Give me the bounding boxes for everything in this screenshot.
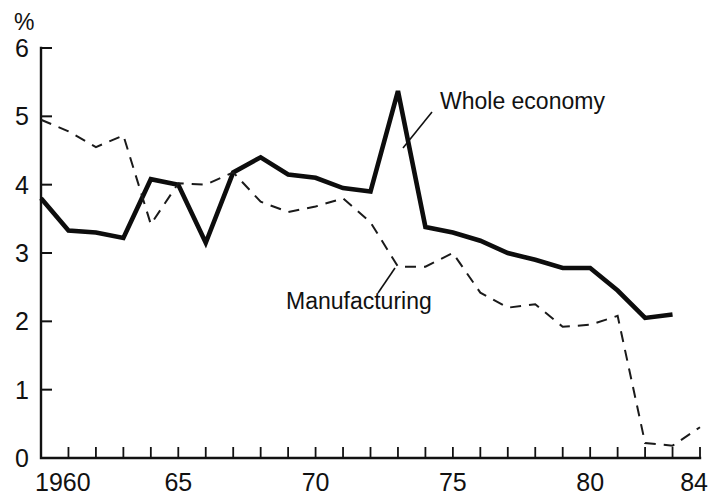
annotation-label-whole-economy: Whole economy xyxy=(440,88,605,114)
x-tick-label: 1960 xyxy=(35,468,91,496)
x-tick-label: 80 xyxy=(576,468,604,496)
y-tick-label: 1 xyxy=(15,376,29,404)
x-tick-label: 65 xyxy=(164,468,192,496)
y-axis-unit-label: % xyxy=(14,9,34,35)
y-tick-label: 6 xyxy=(15,34,29,62)
chart-figure: 0123456 19606570758084 Whole economyManu… xyxy=(0,0,726,503)
line-chart: 0123456 19606570758084 Whole economyManu… xyxy=(0,0,726,503)
series-line-manufacturing xyxy=(41,120,700,446)
y-tick-label: 5 xyxy=(15,102,29,130)
annotation-label-manufacturing: Manufacturing xyxy=(286,288,432,314)
y-tick-label: 3 xyxy=(15,239,29,267)
chart-series xyxy=(41,91,700,446)
y-tick-label: 0 xyxy=(15,444,29,472)
x-axis-tick-labels: 19606570758084 xyxy=(35,468,708,496)
x-tick-label: 84 xyxy=(680,468,708,496)
y-axis-tick-labels: 0123456 xyxy=(15,34,29,472)
series-line-whole-economy xyxy=(41,91,673,318)
y-tick-label: 4 xyxy=(15,171,29,199)
y-tick-label: 2 xyxy=(15,307,29,335)
x-tick-label: 70 xyxy=(302,468,330,496)
x-tick-label: 75 xyxy=(439,468,467,496)
